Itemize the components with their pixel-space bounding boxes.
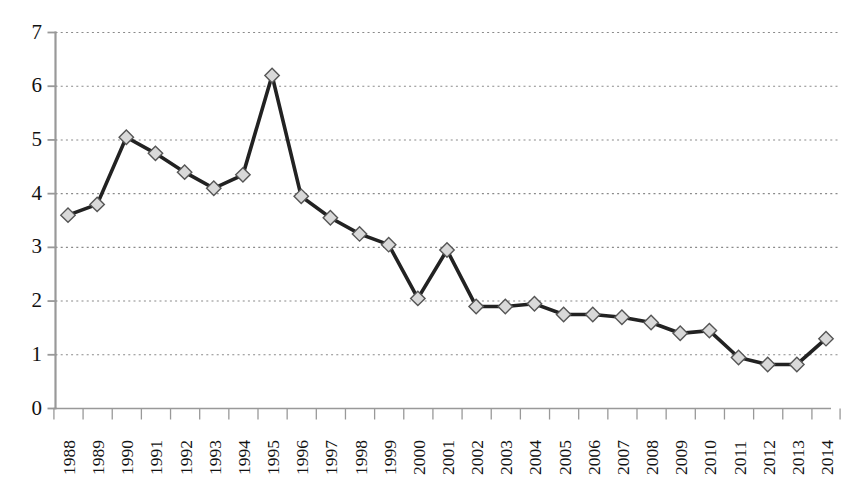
x-tick-label: 2002 [469,440,487,475]
x-tick-label: 2001 [440,440,458,475]
data-point-marker [586,307,600,321]
y-tick-label: 7 [14,22,42,43]
x-tick-label: 1993 [207,440,225,475]
data-point-marker [615,310,629,324]
data-line [68,75,826,364]
x-tick-marks [54,409,840,420]
y-tick-label: 0 [14,398,42,419]
series-line [68,75,826,364]
data-point-marker [498,299,512,313]
x-tick-label: 1992 [178,440,196,475]
plot-area [0,0,854,500]
x-tick-label: 2009 [673,440,691,475]
x-tick-label: 1989 [90,440,108,475]
data-point-marker [61,208,75,222]
y-tick-label: 5 [14,129,42,150]
x-tick-label: 1999 [382,440,400,475]
x-tick-label: 1988 [61,440,79,475]
gridlines [56,33,840,355]
data-point-marker [527,297,541,311]
y-tick-label: 2 [14,290,42,311]
x-tick-label: 1998 [353,440,371,475]
x-tick-label: 1991 [148,440,166,475]
axis-lines [54,32,832,409]
y-tick-label: 3 [14,236,42,257]
y-tick-label: 1 [14,344,42,365]
x-tick-label: 2013 [790,440,808,475]
x-tick-label: 2005 [557,440,575,475]
y-tick-label: 4 [14,183,42,204]
data-point-marker [673,326,687,340]
data-point-marker [644,315,658,329]
x-tick-label: 2003 [498,440,516,475]
data-point-marker [265,68,279,82]
x-tick-label: 1995 [265,440,283,475]
x-tick-label: 2014 [819,440,837,475]
x-tick-label: 1994 [236,440,254,475]
data-point-marker [236,168,250,182]
data-point-marker [760,357,774,371]
data-point-marker [469,299,483,313]
data-point-marker [556,307,570,321]
x-tick-label: 2011 [732,440,750,474]
data-markers [61,68,833,371]
x-tick-label: 2012 [761,440,779,475]
x-tick-label: 1990 [119,440,137,475]
x-tick-label: 1996 [294,440,312,475]
x-tick-label: 2007 [615,440,633,475]
data-point-marker [352,227,366,241]
x-tick-label: 2004 [527,440,545,475]
x-tick-label: 1997 [323,440,341,475]
line-chart: 01234567 1988198919901991199219931994199… [0,0,854,500]
data-point-marker [90,197,104,211]
data-point-marker [119,130,133,144]
x-tick-label: 2010 [702,440,720,475]
data-point-marker [381,237,395,251]
y-tick-label: 6 [14,75,42,96]
x-tick-label: 2000 [411,440,429,475]
data-point-marker [207,181,221,195]
x-tick-label: 2008 [644,440,662,475]
x-tick-label: 2006 [586,440,604,475]
